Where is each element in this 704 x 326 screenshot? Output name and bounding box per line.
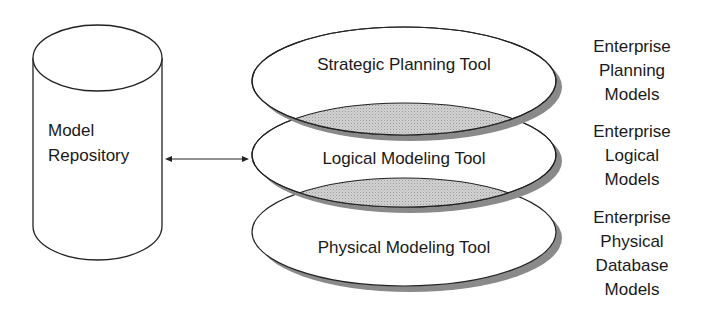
svg-text:Models: Models [605, 170, 660, 189]
diagram-canvas: Model Repository Strategic Planning Tool… [0, 0, 704, 326]
strategic-planning-tool-label: Strategic Planning Tool [317, 55, 491, 74]
model-repository-cylinder [33, 25, 162, 260]
repository-label-line2: Repository [48, 146, 130, 165]
svg-text:Planning: Planning [599, 61, 665, 80]
bidirectional-arrow-icon [165, 156, 249, 162]
svg-text:Logical: Logical [605, 146, 659, 165]
physical-modeling-tool-label: Physical Modeling Tool [318, 238, 491, 257]
repository-label-line1: Model [48, 121, 94, 140]
enterprise-physical-database-models-label: Enterprise Physical Database Models [593, 208, 670, 299]
svg-text:Models: Models [605, 280, 660, 299]
enterprise-planning-models-label: Enterprise Planning Models [593, 37, 670, 104]
svg-text:Enterprise: Enterprise [593, 37, 670, 56]
svg-text:Models: Models [605, 85, 660, 104]
svg-text:Physical: Physical [600, 232, 663, 251]
svg-text:Enterprise: Enterprise [593, 122, 670, 141]
svg-text:Enterprise: Enterprise [593, 208, 670, 227]
svg-text:Database: Database [596, 256, 669, 275]
enterprise-logical-models-label: Enterprise Logical Models [593, 122, 670, 189]
logical-modeling-tool-label: Logical Modeling Tool [322, 149, 485, 168]
